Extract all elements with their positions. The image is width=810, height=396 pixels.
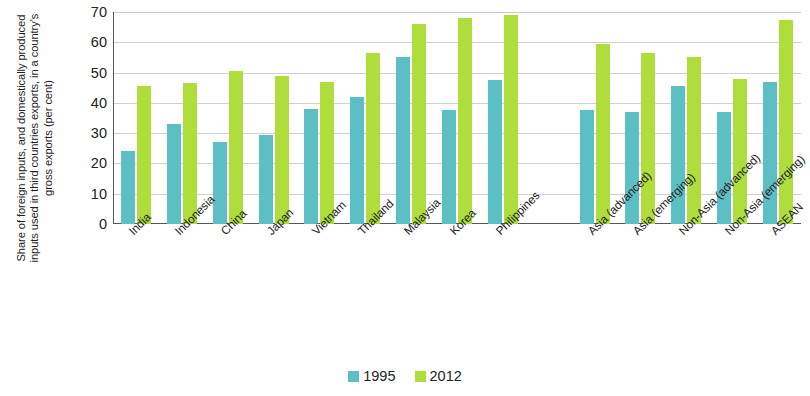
y-axis-tick-label: 50 xyxy=(67,65,107,81)
bar-japan-2012 xyxy=(275,76,289,224)
y-axis-tick-label: 60 xyxy=(67,34,107,50)
bar-china-2012 xyxy=(229,71,243,224)
x-axis-category-labels: IndiaIndonesiaChinaJapanVietnamThailandM… xyxy=(113,224,801,344)
legend-label: 2012 xyxy=(430,368,462,384)
bar-thailand-1995 xyxy=(350,97,364,224)
y-axis-tick-label: 20 xyxy=(67,155,107,171)
bar-non-asia-emerging-1995 xyxy=(717,112,731,224)
bar-asia-emerging-2012 xyxy=(641,53,655,224)
y-axis-tick-label: 10 xyxy=(67,186,107,202)
bar-vietnam-2012 xyxy=(320,82,334,224)
bar-asia-advanced-1995 xyxy=(580,110,594,224)
bar-korea-2012 xyxy=(458,18,472,224)
bar-china-1995 xyxy=(213,142,227,224)
legend-swatch-icon xyxy=(348,371,359,382)
y-axis-title: Share of foreign inputs, and domesticall… xyxy=(15,6,55,271)
bar-asia-emerging-1995 xyxy=(625,112,639,224)
bar-korea-1995 xyxy=(442,110,456,224)
legend-item-1995[interactable]: 1995 xyxy=(348,368,395,384)
bar-india-1995 xyxy=(121,151,135,224)
y-axis-tick-labels: 010203040506070 xyxy=(62,12,107,224)
chart-legend: 19952012 xyxy=(0,368,810,384)
bar-indonesia-2012 xyxy=(183,83,197,224)
legend-item-2012[interactable]: 2012 xyxy=(415,368,462,384)
y-axis-tick-label: 0 xyxy=(67,216,107,232)
bar-vietnam-1995 xyxy=(304,109,318,224)
y-axis-tick-label: 40 xyxy=(67,95,107,111)
bar-asean-2012 xyxy=(779,20,793,224)
y-axis-tick-label: 70 xyxy=(67,4,107,20)
bar-philippines-2012 xyxy=(504,15,518,224)
bar-non-asia-emerging-2012 xyxy=(733,79,747,224)
bar-chart: Share of foreign inputs, and domesticall… xyxy=(0,0,810,396)
legend-label: 1995 xyxy=(363,368,395,384)
bar-japan-1995 xyxy=(259,135,273,224)
bar-philippines-1995 xyxy=(488,80,502,224)
bars-layer xyxy=(113,12,801,224)
bar-indonesia-1995 xyxy=(167,124,181,224)
bar-malaysia-1995 xyxy=(396,57,410,224)
bar-thailand-2012 xyxy=(366,53,380,224)
bar-malaysia-2012 xyxy=(412,24,426,224)
bar-asia-advanced-2012 xyxy=(596,44,610,224)
bar-non-asia-advanced-2012 xyxy=(687,57,701,224)
bar-india-2012 xyxy=(137,86,151,224)
y-axis-tick-label: 30 xyxy=(67,125,107,141)
legend-swatch-icon xyxy=(415,371,426,382)
